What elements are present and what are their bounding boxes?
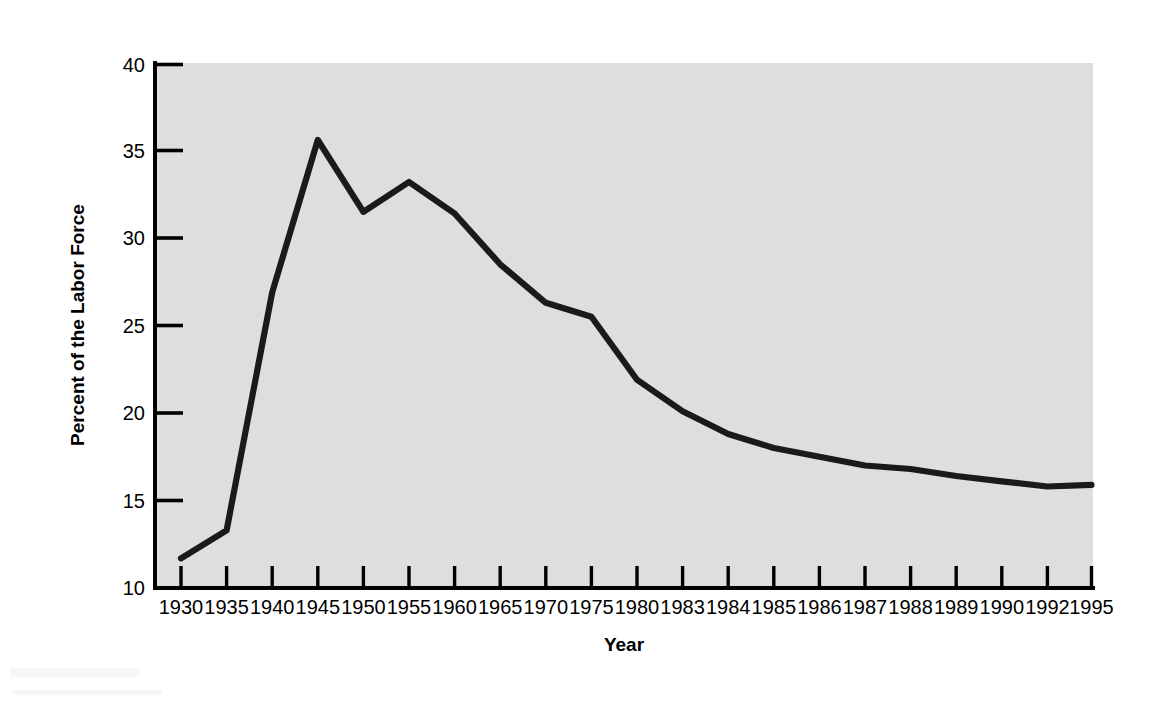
y-tick-label: 30 <box>123 227 145 249</box>
x-tick-label: 1989 <box>934 596 979 618</box>
y-tick-label: 20 <box>123 402 145 424</box>
x-axis-ticks <box>181 566 1092 588</box>
x-tick-label: 1955 <box>387 596 432 618</box>
scan-artifact <box>10 668 140 677</box>
y-tick-label: 40 <box>123 54 145 76</box>
x-tick-label: 1987 <box>843 596 888 618</box>
x-tick-label: 1970 <box>524 596 569 618</box>
y-tick-label: 35 <box>123 140 145 162</box>
x-tick-label: 1965 <box>478 596 523 618</box>
chart-figure: 10 15 20 25 30 35 40 <box>0 0 1151 707</box>
line-chart: 10 15 20 25 30 35 40 <box>0 0 1151 707</box>
x-tick-label: 1990 <box>980 596 1025 618</box>
scan-artifact <box>12 690 162 695</box>
x-axis-title: Year <box>604 634 645 655</box>
y-tick-label: 10 <box>123 577 145 599</box>
x-tick-label: 1995 <box>1069 596 1114 618</box>
y-axis-tick-labels: 10 15 20 25 30 35 40 <box>123 54 145 599</box>
x-tick-label: 1986 <box>797 596 842 618</box>
x-tick-label: 1930 <box>159 596 204 618</box>
plot-area-background <box>155 63 1093 588</box>
x-tick-label: 1980 <box>615 596 660 618</box>
y-tick-label: 25 <box>123 315 145 337</box>
x-tick-label: 1975 <box>569 596 614 618</box>
x-tick-label: 1950 <box>341 596 386 618</box>
x-tick-label: 1935 <box>204 596 249 618</box>
x-tick-label: 1984 <box>706 596 751 618</box>
x-tick-label: 1992 <box>1025 596 1070 618</box>
x-tick-label: 1988 <box>888 596 933 618</box>
x-tick-label: 1985 <box>752 596 797 618</box>
y-tick-label: 15 <box>123 490 145 512</box>
x-tick-label: 1960 <box>432 596 477 618</box>
x-tick-label: 1983 <box>660 596 705 618</box>
x-tick-label: 1940 <box>250 596 295 618</box>
x-tick-label: 1945 <box>296 596 341 618</box>
x-axis-tick-labels: 1930 1935 1940 1945 1950 1955 1960 1965 … <box>159 596 1114 618</box>
y-axis-title: Percent of the Labor Force <box>67 204 88 446</box>
